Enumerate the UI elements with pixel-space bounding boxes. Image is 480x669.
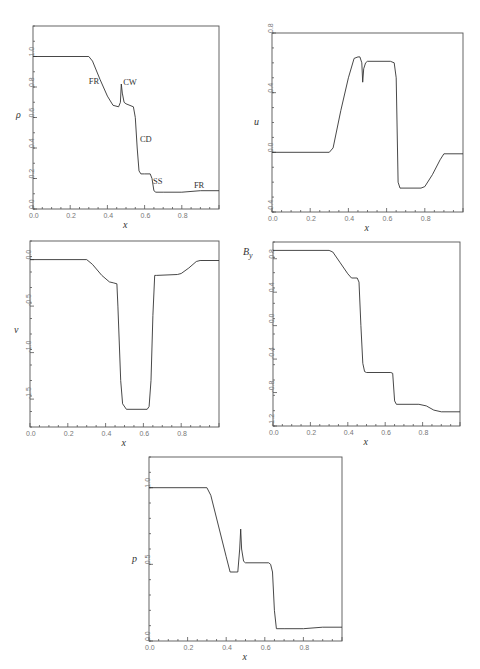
x-tick-label: 0.2 — [64, 430, 74, 437]
x-tick-label: 0.0 — [29, 212, 39, 219]
y-tick-label: 0.4 — [268, 282, 275, 292]
x-tick-label: 0.6 — [383, 215, 393, 222]
y-axis-label: By — [243, 246, 253, 260]
y-tick-label: 0.2 — [28, 169, 35, 179]
x-tick-label: 0.8 — [178, 212, 188, 219]
y-tick-label: 0.0 — [25, 250, 32, 260]
x-axis-label: x — [363, 436, 369, 447]
data-curve — [272, 57, 463, 188]
plot-frame — [30, 241, 219, 427]
y-axis-label: u — [254, 116, 259, 127]
x-tick-label: 0.8 — [299, 644, 309, 651]
velocity-u-chart: 0.00.20.40.60.8-0.40.00.40.8xu — [240, 0, 480, 225]
x-tick-label: 0.4 — [344, 215, 354, 222]
pressure-chart: 0.00.20.40.60.80.00.51.0xp — [120, 445, 360, 669]
y-tick-label: -1.5 — [25, 387, 32, 399]
y-tick-label: 0.0 — [28, 199, 35, 209]
x-tick-label: 0.0 — [268, 215, 278, 222]
x-tick-label: 0.6 — [141, 212, 151, 219]
plot-frame — [33, 26, 219, 209]
density-chart: 0.00.20.40.60.80.00.20.40.60.81.0xρFRCWC… — [0, 0, 240, 225]
plot-frame — [149, 457, 342, 641]
y-tick-label: -0.4 — [268, 347, 275, 359]
y-tick-label: 0.8 — [267, 23, 274, 33]
x-tick-label: 0.4 — [222, 644, 232, 651]
plot-pressure: 0.00.20.40.60.80.00.51.0xp — [120, 445, 360, 669]
plot-density: 0.00.20.40.60.80.00.20.40.60.81.0xρFRCWC… — [0, 0, 240, 225]
data-curve — [273, 250, 460, 411]
x-tick-label: 0.4 — [102, 430, 112, 437]
y-axis-label: v — [14, 324, 19, 335]
y-tick-label: 0.0 — [267, 142, 274, 152]
plot-velocity-v: 0.00.20.40.60.8-1.5-1.0-0.50.0xv — [0, 225, 240, 445]
plot-frame — [272, 33, 463, 212]
y-tick-label: -0.8 — [268, 380, 275, 392]
y-axis-label: ρ — [15, 109, 21, 120]
x-tick-label: 0.8 — [419, 429, 429, 436]
plot-magnetic-by: 0.00.20.40.60.8-1.2-0.8-0.4-0.00.40.8xBy — [240, 225, 480, 445]
y-tick-label: -0.5 — [25, 294, 32, 306]
wave-annotation: CD — [140, 134, 152, 144]
x-axis-label: x — [242, 651, 248, 662]
y-tick-label: -0.4 — [267, 200, 274, 212]
x-tick-label: 0.2 — [66, 212, 76, 219]
y-axis-label: p — [131, 553, 137, 564]
y-tick-label: 0.5 — [144, 554, 151, 564]
y-tick-label: 1.0 — [28, 47, 35, 57]
x-tick-label: 0.0 — [145, 644, 155, 651]
x-tick-label: 0.4 — [103, 212, 113, 219]
y-tick-label: 1.0 — [144, 478, 151, 488]
y-tick-label: 0.4 — [28, 138, 35, 148]
y-tick-label: 0.6 — [28, 108, 35, 118]
data-curve — [149, 488, 342, 629]
x-tick-label: 0.6 — [261, 644, 271, 651]
x-tick-label: 0.2 — [184, 644, 194, 651]
y-tick-label: 0.0 — [144, 631, 151, 641]
y-tick-label: 0.4 — [267, 83, 274, 93]
velocity-v-chart: 0.00.20.40.60.8-1.5-1.0-0.50.0xv — [0, 225, 240, 445]
x-tick-label: 0.6 — [381, 429, 391, 436]
wave-annotation: SS — [153, 176, 163, 186]
x-tick-label: 0.2 — [306, 429, 316, 436]
magnetic-field-by-chart: 0.00.20.40.60.8-1.2-0.8-0.4-0.00.40.8xBy — [240, 225, 480, 445]
x-tick-label: 0.0 — [26, 430, 36, 437]
data-curve — [30, 260, 219, 410]
y-tick-label: -0.0 — [268, 313, 275, 325]
wave-annotation: FR — [89, 76, 100, 86]
y-tick-label: -1.0 — [25, 340, 32, 352]
wave-annotation: CW — [123, 77, 137, 87]
x-tick-label: 0.8 — [177, 430, 187, 437]
y-tick-label: 0.8 — [28, 77, 35, 87]
x-tick-label: 0.0 — [269, 429, 279, 436]
plot-velocity-u: 0.00.20.40.60.8-0.40.00.40.8xu — [240, 0, 480, 225]
x-tick-label: 0.4 — [344, 429, 354, 436]
x-tick-label: 0.2 — [306, 215, 316, 222]
x-tick-label: 0.8 — [421, 215, 431, 222]
y-tick-label: -1.2 — [268, 414, 275, 426]
wave-annotation: FR — [194, 180, 205, 190]
x-tick-label: 0.6 — [139, 430, 149, 437]
plot-frame — [273, 242, 460, 426]
